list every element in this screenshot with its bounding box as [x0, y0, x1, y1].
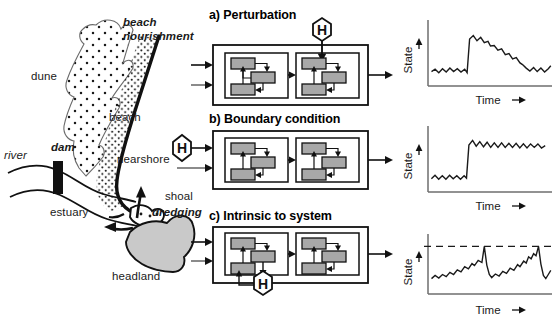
arrow-shoal-up-head — [136, 186, 146, 198]
chart-c-xlabel: Time — [475, 304, 500, 316]
chart-c-series — [432, 246, 551, 278]
arrow-bypass — [109, 214, 124, 217]
label-nearshore: nearshore — [117, 153, 170, 165]
arrow-inlet-left-head — [104, 222, 116, 232]
label-estuary: estuary — [50, 206, 88, 218]
panel-a-system-diagram: H — [195, 22, 395, 112]
panel-c-title: c) Intrinsic to system — [209, 209, 332, 223]
label-river: river — [4, 149, 27, 161]
label-beach-nourishment-line1: beach — [123, 16, 157, 28]
label-shoal: shoal — [165, 190, 193, 202]
h-marker-boundary-condition: H — [173, 135, 191, 161]
chart-a-xlabel: Time — [475, 94, 500, 106]
h-marker-perturbation: H — [313, 18, 331, 41]
panel-c-system-diagram: H — [195, 225, 395, 317]
panel-b-system-diagram: H — [195, 128, 395, 213]
chart-a-perturbation: State Time — [400, 12, 556, 108]
chart-b-boundary-condition: State Time — [400, 118, 556, 214]
chart-b-xlabel: Time — [475, 200, 500, 212]
dam-structure — [53, 161, 63, 194]
h-marker-intrinsic: H — [254, 271, 272, 295]
panel-b-title: b) Boundary condition — [209, 112, 340, 126]
chart-a-ylabel: State — [402, 47, 414, 74]
svg-text:H: H — [177, 140, 187, 156]
label-beach: beach — [109, 111, 141, 123]
chart-c-svg: State Time — [400, 222, 556, 318]
svg-text:H: H — [258, 276, 268, 292]
label-dam: dam — [51, 141, 75, 153]
map-svg — [0, 0, 208, 318]
chart-b-ylabel: State — [402, 153, 414, 180]
label-dune: dune — [31, 70, 57, 82]
chart-c-intrinsic: State Time — [400, 222, 556, 318]
coastal-sediment-system-map — [0, 0, 208, 318]
panel-a-title: a) Perturbation — [209, 8, 296, 22]
chart-a-svg: State Time — [400, 12, 556, 108]
chart-b-svg: State Time — [400, 118, 556, 214]
label-headland: headland — [112, 270, 160, 282]
chart-a-series — [432, 36, 551, 73]
label-beach-nourishment-line2: nourishment — [123, 30, 194, 42]
svg-text:H: H — [317, 22, 327, 38]
chart-c-ylabel: State — [402, 259, 414, 286]
figure-root: beach nourishment dune beach river dam n… — [0, 0, 556, 318]
chart-b-series — [431, 140, 545, 179]
